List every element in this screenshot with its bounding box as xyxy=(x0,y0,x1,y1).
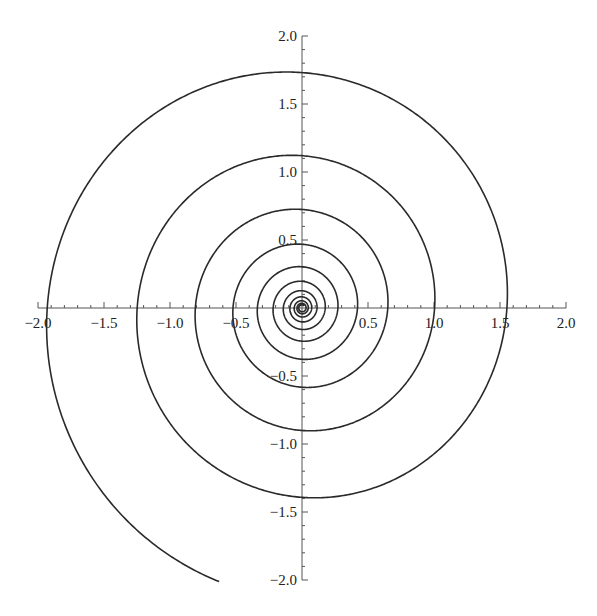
x-tick-label: 2.0 xyxy=(557,315,576,331)
x-tick-label: −0.5 xyxy=(222,315,249,331)
y-tick-label: 1.5 xyxy=(278,96,297,112)
y-tick-label: −2.0 xyxy=(270,572,297,588)
y-tick-label: −1.0 xyxy=(270,436,297,452)
spiral-chart: −2.0−1.5−1.0−0.50.51.01.52.0 2.01.51.00.… xyxy=(0,0,597,616)
x-tick-label: 0.5 xyxy=(359,315,378,331)
y-tick-label: 2.0 xyxy=(278,28,297,44)
x-tick-label: −1.0 xyxy=(156,315,183,331)
y-tick-label: −0.5 xyxy=(270,368,297,384)
x-tick-label: −1.5 xyxy=(90,315,117,331)
axes: −2.0−1.5−1.0−0.50.51.01.52.0 2.01.51.00.… xyxy=(24,28,575,588)
y-tick-label: 1.0 xyxy=(278,164,297,180)
y-tick-label: −1.5 xyxy=(270,504,297,520)
